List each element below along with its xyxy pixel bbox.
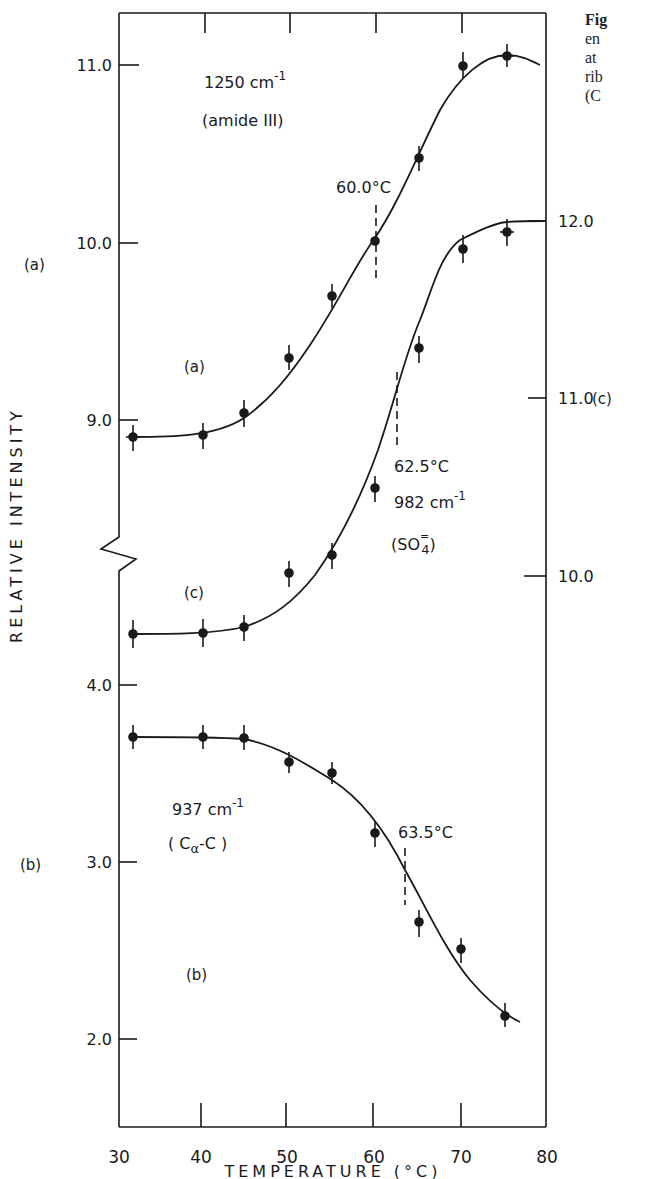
annotation-c-transition-temp: 62.5°C — [394, 457, 449, 476]
caption-line: en — [585, 29, 652, 48]
y-tick-label: 11.0 — [558, 389, 594, 408]
data-point — [459, 52, 467, 78]
x-ticks-bottom — [201, 1103, 461, 1127]
annotation-c-tag: (c) — [184, 584, 204, 602]
left-upper-axis-tag: (a) — [24, 256, 45, 274]
y-tick-labels-left: 11.0 10.0 9.0 4.0 3.0 2.0 — [76, 56, 112, 1049]
plot-frame — [101, 13, 546, 1127]
y-tick-label: 10.0 — [558, 567, 594, 586]
caption-line: at — [585, 48, 652, 67]
annotation-a-transition-temp: 60.0°C — [336, 178, 391, 197]
data-point — [328, 543, 336, 569]
data-point — [415, 336, 423, 363]
data-point — [240, 615, 248, 641]
y-tick-label: 11.0 — [76, 56, 112, 75]
annotation-a-tag: (a) — [184, 358, 205, 376]
x-tick-label: 80 — [536, 1147, 558, 1167]
data-point — [371, 237, 379, 245]
annotation-a-assignment: (amide III) — [202, 111, 284, 130]
axis-break — [101, 13, 136, 1127]
data-point — [285, 561, 293, 587]
data-point — [129, 620, 137, 648]
caption-line: Fig — [585, 10, 652, 29]
y-tick-labels-right: 12.0 11.0 10.0 — [558, 212, 594, 586]
annotation-b-transition-temp: 63.5°C — [398, 823, 453, 842]
data-point — [129, 725, 137, 749]
data-point — [285, 752, 293, 773]
data-point — [415, 910, 423, 937]
data-point — [500, 44, 514, 67]
x-ticks-top — [205, 13, 462, 33]
annotations: 1250 cm-1 (amide III) 60.0°C (a) 62.5°C … — [168, 69, 466, 984]
caption-line: (C — [585, 86, 652, 105]
chart: 30 40 50 60 70 80 11.0 10.0 9.0 4.0 3.0 … — [0, 0, 652, 1179]
y-axis-title: RELATIVE INTENSITY — [7, 407, 26, 643]
x-tick-label: 40 — [190, 1147, 212, 1167]
y-tick-label: 12.0 — [558, 212, 594, 231]
data-point — [457, 938, 465, 963]
y-tick-label: 3.0 — [87, 853, 112, 872]
figure-caption-fragment: Fig en at rib (C — [585, 10, 652, 105]
x-tick-label: 70 — [450, 1147, 472, 1167]
annotation-b-tag: (b) — [186, 966, 207, 984]
data-point — [199, 725, 207, 749]
left-lower-axis-tag: (b) — [20, 856, 41, 874]
data-point — [126, 425, 140, 451]
data-point — [328, 762, 336, 784]
data-point — [371, 476, 379, 502]
x-tick-label: 30 — [108, 1147, 130, 1167]
y-tick-label: 10.0 — [76, 234, 112, 253]
y-ticks-right — [524, 221, 546, 576]
data-point — [240, 725, 248, 750]
y-tick-label: 4.0 — [87, 676, 112, 695]
annotation-a-wavenumber: 1250 cm-1 — [204, 69, 286, 92]
data-point — [240, 400, 248, 427]
data-point — [199, 619, 207, 647]
annotation-b-wavenumber: 937 cm-1 — [172, 796, 244, 819]
x-axis-title: TEMPERATURE (°C) — [223, 1162, 441, 1179]
series-a — [126, 44, 540, 451]
annotation-c-assignment: (SO=4) — [391, 530, 436, 557]
right-axis-tag: (c) — [592, 390, 612, 408]
data-point — [285, 345, 293, 370]
fit-curve-a — [133, 55, 540, 437]
fit-curve-c — [133, 221, 545, 634]
data-point — [199, 423, 207, 449]
data-point — [501, 1003, 509, 1027]
annotation-c-wavenumber: 982 cm-1 — [394, 489, 466, 512]
y-tick-label: 9.0 — [87, 411, 112, 430]
data-points-a — [126, 44, 514, 451]
annotation-b-assignment: ( Cα-C ) — [168, 834, 227, 856]
y-tick-label: 2.0 — [87, 1030, 112, 1049]
y-ticks-left — [119, 65, 139, 1039]
caption-line: rib — [585, 67, 652, 86]
